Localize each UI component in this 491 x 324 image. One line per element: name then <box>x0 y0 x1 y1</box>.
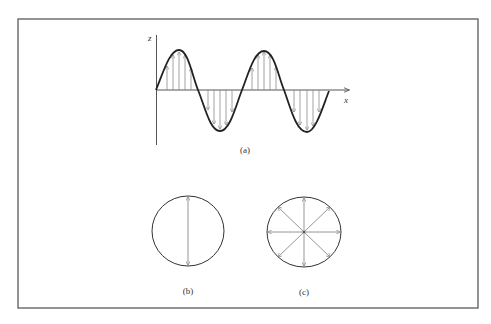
panel-a-label: (a) <box>240 145 250 155</box>
wave-curve <box>156 50 329 132</box>
figure-frame <box>18 19 478 308</box>
figure: z x (a) <box>0 0 491 324</box>
panel-a: z x (a) <box>147 33 349 155</box>
x-axis-label: x <box>343 95 348 105</box>
panel-c-label: (c) <box>299 287 309 297</box>
panel-c: (c) <box>267 197 341 297</box>
panel-b-label: (b) <box>183 286 194 296</box>
center-point <box>303 231 306 234</box>
panel-b: (b) <box>152 196 224 296</box>
z-axis-label: z <box>147 33 152 43</box>
